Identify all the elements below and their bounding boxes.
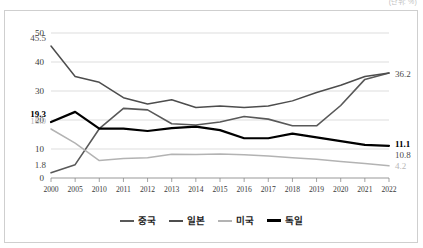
x-axis: 2000200520102011201220132014201520162017…: [43, 178, 396, 194]
legend-label: 독일: [285, 216, 303, 226]
x-axis-tick-label: 2019: [309, 185, 324, 194]
series-line-us: [51, 129, 389, 166]
y-axis-tick-label: 40: [35, 57, 45, 67]
x-axis-tick-label: 2020: [333, 185, 348, 194]
x-axis-tick-label: 2010: [92, 185, 107, 194]
x-axis-tick-label: 2000: [43, 185, 58, 194]
x-axis-tick-label: 2015: [212, 185, 227, 194]
data-value-labels: 45.519.316.91.836.211.110.84.2: [30, 33, 411, 171]
line-chart-svg: 01020304050 2000200520102011201220132014…: [0, 0, 423, 248]
legend-swatch-icon-jp: [169, 220, 183, 222]
value-label-end-cn: 36.2: [395, 69, 411, 79]
series-line-jp: [51, 46, 389, 107]
value-label-end-de: 11.1: [395, 139, 411, 149]
legend-item-us[interactable]: 미국: [218, 216, 254, 226]
legend-item-de[interactable]: 독일: [267, 216, 303, 226]
legend-item-jp[interactable]: 일본: [169, 216, 205, 226]
x-axis-tick-label: 2021: [357, 185, 372, 194]
y-axis-tick-label: 10: [35, 144, 45, 154]
value-label-start-jp: 45.5: [30, 33, 46, 43]
value-label-start-us: 16.9: [30, 116, 46, 126]
legend-swatch-icon-de: [267, 219, 281, 222]
x-axis-tick-label: 2017: [261, 185, 276, 194]
legend-item-cn[interactable]: 중국: [120, 216, 156, 226]
legend-label: 중국: [138, 216, 156, 226]
chart-legend: 중국일본미국독일: [0, 216, 423, 226]
y-axis-tick-label: 30: [35, 86, 45, 96]
x-axis-tick-label: 2016: [237, 185, 252, 194]
series-line-de: [51, 112, 389, 146]
series-line-cn: [51, 73, 389, 173]
x-axis-tick-label: 2011: [116, 185, 131, 194]
gridlines: [51, 33, 389, 149]
x-axis-tick-label: 2012: [140, 185, 155, 194]
value-label-end-us: 4.2: [395, 161, 406, 171]
x-axis-tick-label: 2018: [285, 185, 300, 194]
legend-swatch-icon-cn: [120, 220, 134, 222]
value-label-start-cn: 1.8: [35, 160, 47, 170]
y-axis-tick-label: 0: [40, 173, 45, 183]
legend-label: 일본: [187, 216, 205, 226]
data-series: [51, 46, 389, 173]
value-label-end-jp: 10.8: [395, 150, 411, 160]
chart-plot-area: 01020304050 2000200520102011201220132014…: [0, 0, 423, 248]
legend-label: 미국: [236, 216, 254, 226]
x-axis-tick-label: 2005: [68, 185, 83, 194]
x-axis-tick-label: 2014: [188, 185, 203, 194]
x-axis-tick-label: 2013: [164, 185, 179, 194]
legend-swatch-icon-us: [218, 220, 232, 222]
x-axis-tick-label: 2022: [381, 185, 396, 194]
